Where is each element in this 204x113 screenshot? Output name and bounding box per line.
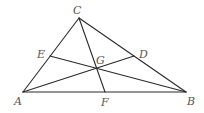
point-label-b: B [186, 95, 195, 108]
point-label-e: E [36, 48, 45, 61]
point-label-d: D [138, 48, 148, 61]
point-label-c: C [73, 4, 82, 17]
side-ac-line [23, 18, 79, 92]
point-label-g: G [96, 54, 105, 67]
labels-group: ABCDEFG [13, 4, 195, 109]
triangle-diagram: ABCDEFG [0, 0, 204, 113]
point-label-f: F [100, 96, 109, 109]
point-label-a: A [13, 95, 22, 108]
